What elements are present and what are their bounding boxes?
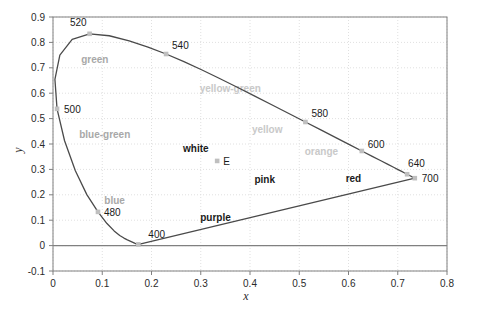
x-tick-label: 0.7: [391, 278, 405, 289]
wavelength-marker-600: [359, 149, 364, 154]
white-point-marker: [215, 159, 220, 164]
wavelength-marker-480: [96, 210, 101, 215]
region-label-green: green: [81, 54, 108, 65]
wavelength-label-480: 480: [104, 207, 121, 218]
x-tick-label: 0.6: [342, 278, 356, 289]
wavelength-label-540: 540: [172, 40, 189, 51]
wavelength-marker-500: [55, 107, 60, 112]
chromaticity-diagram-figure: 00.10.20.30.40.50.60.70.8 -0.100.10.20.3…: [0, 0, 491, 310]
y-tick-label: 0.6: [31, 88, 45, 99]
y-tick-label: -0.1: [28, 266, 46, 277]
x-axis-title: x: [242, 289, 249, 303]
y-tick-label: 0.1: [31, 215, 45, 226]
y-tick-label: 0.4: [31, 139, 45, 150]
y-tick-label: 0.7: [31, 62, 45, 73]
white-point-label: E: [223, 156, 230, 167]
region-label-white: white: [182, 143, 209, 154]
wavelength-label-700: 700: [422, 173, 439, 184]
x-tick-label: 0.5: [292, 278, 306, 289]
region-label-pink: pink: [254, 174, 275, 185]
cie-chromaticity-chart: 00.10.20.30.40.50.60.70.8 -0.100.10.20.3…: [0, 0, 491, 310]
wavelength-label-640: 640: [408, 158, 425, 169]
region-label-blue-green: blue-green: [79, 129, 130, 140]
x-tick-label: 0: [50, 278, 56, 289]
wavelength-label-600: 600: [368, 139, 385, 150]
wavelength-marker-400: [136, 242, 141, 247]
wavelength-label-520: 520: [70, 17, 87, 28]
x-tick-label: 0.1: [95, 278, 109, 289]
region-label-purple: purple: [200, 212, 231, 223]
y-tick-label: 0.8: [31, 37, 45, 48]
wavelength-marker-700: [412, 176, 417, 181]
wavelength-marker-520: [87, 32, 92, 37]
y-axis-title: y: [11, 147, 25, 154]
x-tick-label: 0.2: [145, 278, 159, 289]
wavelength-marker-580: [303, 120, 308, 125]
y-tick-label: 0.9: [31, 12, 45, 23]
wavelength-label-400: 400: [148, 229, 165, 240]
wavelength-label-580: 580: [311, 108, 328, 119]
x-tick-label: 0.3: [194, 278, 208, 289]
wavelength-label-500: 500: [64, 104, 81, 115]
x-tick-label: 0.8: [440, 278, 454, 289]
y-tick-label: 0: [39, 240, 45, 251]
region-label-red: red: [346, 173, 362, 184]
y-tick-label: 0.2: [31, 189, 45, 200]
wavelength-marker-640: [405, 172, 410, 177]
region-label-yellow-green: yellow-green: [200, 83, 261, 94]
wavelength-marker-540: [164, 52, 169, 57]
region-label-yellow: yellow: [252, 124, 283, 135]
region-label-orange: orange: [305, 146, 339, 157]
x-tick-label: 0.4: [243, 278, 257, 289]
y-tick-label: 0.3: [31, 164, 45, 175]
chart-background: [0, 0, 491, 310]
y-tick-label: 0.5: [31, 113, 45, 124]
region-label-blue: blue: [104, 195, 125, 206]
